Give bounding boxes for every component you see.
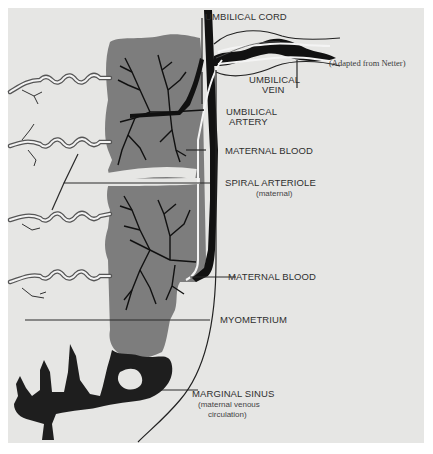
marginal-sinus — [14, 344, 172, 440]
maternal-blood-region-upper — [105, 34, 206, 358]
credit-text: (Adapted from Netter) — [329, 58, 405, 68]
spiral-arterioles — [10, 75, 110, 282]
label-marginal-sinus: MARGINAL SINUS — [192, 389, 274, 399]
diagram-artwork — [0, 0, 433, 454]
label-marginal-sinus-sub1: (maternal venous — [198, 400, 260, 410]
label-spiral-arteriole-sub: (maternal) — [256, 189, 292, 199]
label-umbilical-artery-line2: ARTERY — [229, 117, 268, 127]
label-spiral-arteriole: SPIRAL ARTERIOLE — [225, 178, 316, 188]
label-myometrium: MYOMETRIUM — [220, 315, 287, 325]
label-marginal-sinus-sub2: circulation) — [208, 410, 247, 420]
label-maternal-blood-upper: MATERNAL BLOOD — [225, 146, 313, 156]
label-maternal-blood-lower: MATERNAL BLOOD — [228, 272, 316, 282]
label-umbilical-cord: UMBILICAL CORD — [205, 12, 287, 22]
label-umbilical-vein-line2: VEIN — [262, 85, 285, 95]
placenta-diagram: UMBILICAL CORD (Adapted from Netter) UMB… — [0, 0, 433, 454]
